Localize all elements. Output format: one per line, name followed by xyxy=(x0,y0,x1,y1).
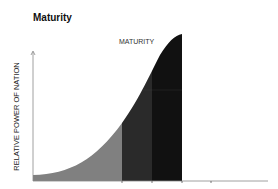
region-early xyxy=(33,30,122,181)
curve-area xyxy=(33,30,182,181)
maturity-annotation: MATURITY xyxy=(119,38,155,45)
region-growth xyxy=(122,30,152,181)
chart-canvas: MATURITY xyxy=(0,0,278,189)
region-maturity xyxy=(152,30,182,181)
